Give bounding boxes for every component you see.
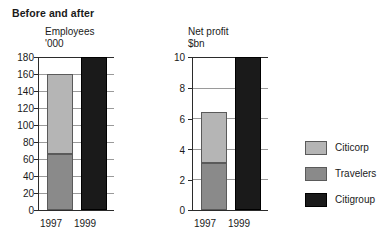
ytick-label-100: 100 bbox=[4, 121, 34, 131]
tickmark-40 bbox=[34, 176, 38, 177]
chart-employees-subtitle: '000 bbox=[45, 38, 94, 50]
legend-swatch-travelers bbox=[305, 167, 327, 181]
tickmark-0 bbox=[34, 210, 38, 211]
ytick-label-160: 160 bbox=[4, 70, 34, 80]
plot-area-net-profit bbox=[192, 57, 268, 211]
chart-employees-heading: Employees '000 bbox=[45, 26, 94, 49]
bar-segment-travelers[interactable] bbox=[201, 163, 227, 210]
tickmark-60 bbox=[34, 159, 38, 160]
ytick-label-120: 120 bbox=[4, 104, 34, 114]
ytick-label-40: 40 bbox=[4, 172, 34, 182]
tickmark-0-profit bbox=[188, 210, 192, 211]
bar-segment-travelers[interactable] bbox=[47, 154, 73, 210]
tickmark-6 bbox=[188, 119, 192, 120]
legend-swatch-citigroup bbox=[305, 193, 327, 207]
xtick-label-1997: 1997 bbox=[33, 219, 69, 229]
bar-segment-citigroup[interactable] bbox=[235, 57, 261, 210]
tickmark-8 bbox=[188, 88, 192, 89]
tickmark-120 bbox=[34, 108, 38, 109]
xtick-label-1997: 1997 bbox=[187, 219, 223, 229]
bar-segment-citigroup[interactable] bbox=[81, 57, 107, 210]
xtick-label-1999: 1999 bbox=[221, 219, 257, 229]
ytick-label-60: 60 bbox=[4, 155, 34, 165]
chart-net-profit-subtitle: $bn bbox=[188, 38, 229, 50]
chart-net-profit-title: Net profit bbox=[188, 26, 229, 37]
ytick-label-2: 2 bbox=[161, 176, 185, 186]
plot-area-employees bbox=[38, 57, 114, 211]
ytick-label-140: 140 bbox=[4, 87, 34, 97]
bar-segment-citicorp[interactable] bbox=[201, 112, 227, 163]
tickmark-100 bbox=[34, 125, 38, 126]
page-title: Before and after bbox=[12, 7, 94, 19]
bar-1999-employees[interactable] bbox=[81, 57, 107, 210]
tickmark-80 bbox=[34, 142, 38, 143]
legend-label-travelers: Travelers bbox=[335, 168, 376, 180]
xtick-label-1999: 1999 bbox=[67, 219, 103, 229]
ytick-label-0-profit: 0 bbox=[161, 206, 185, 216]
tickmark-160 bbox=[34, 74, 38, 75]
tickmark-4 bbox=[188, 149, 192, 150]
tickmark-180 bbox=[34, 57, 38, 58]
ytick-label-80: 80 bbox=[4, 138, 34, 148]
ytick-label-20: 20 bbox=[4, 189, 34, 199]
bar-1997-employees[interactable] bbox=[47, 74, 73, 210]
bar-segment-citicorp[interactable] bbox=[47, 74, 73, 154]
tickmark-2 bbox=[188, 180, 192, 181]
ytick-label-8: 8 bbox=[161, 84, 185, 94]
ytick-label-4: 4 bbox=[161, 146, 185, 156]
tickmark-10 bbox=[188, 57, 192, 58]
ytick-label-6: 6 bbox=[161, 115, 185, 125]
bar-1999-net-profit[interactable] bbox=[235, 57, 261, 210]
ytick-label-0: 0 bbox=[4, 206, 34, 216]
chart-net-profit-heading: Net profit $bn bbox=[188, 26, 229, 49]
legend-label-citigroup: Citigroup bbox=[335, 194, 375, 206]
ytick-label-180: 180 bbox=[4, 53, 34, 63]
legend-swatch-citicorp bbox=[305, 141, 327, 155]
bar-1997-net-profit[interactable] bbox=[201, 112, 227, 210]
legend-label-citicorp: Citicorp bbox=[335, 142, 369, 154]
tickmark-20 bbox=[34, 193, 38, 194]
chart-employees-title: Employees bbox=[45, 26, 94, 37]
ytick-label-10: 10 bbox=[161, 53, 185, 63]
tickmark-140 bbox=[34, 91, 38, 92]
